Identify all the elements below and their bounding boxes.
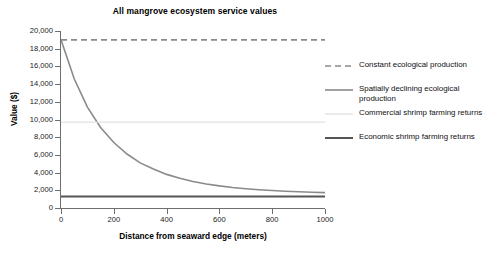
y-tick-mark [55, 120, 60, 121]
chart-figure: All mangrove ecosystem service values 02… [0, 0, 489, 258]
y-axis-label: Value ($) [9, 69, 19, 149]
y-tick-mark [55, 49, 60, 50]
series-line-2 [61, 40, 325, 193]
legend-swatch-icon [325, 136, 353, 140]
x-tick-mark [272, 209, 273, 214]
x-axis-label: Distance from seaward edge (meters) [60, 231, 326, 241]
legend-label: Spatially declining ecological productio… [359, 84, 489, 104]
y-tick-label-wrap: 10,000 [0, 116, 53, 124]
y-tick-label-wrap: 14,000 [0, 80, 53, 88]
legend-swatch-icon [325, 112, 353, 116]
x-tick-label: 1000 [305, 216, 345, 224]
legend-item[interactable]: Commercial shrimp farming returns [325, 108, 489, 128]
y-tick-mark [55, 31, 60, 32]
legend-label: Economic shrimp farming returns [359, 132, 489, 142]
legend-swatch-icon [325, 64, 353, 68]
y-tick-mark [55, 102, 60, 103]
legend-item[interactable]: Constant ecological production [325, 60, 489, 80]
y-tick-label-wrap: 20,000 [0, 27, 53, 35]
y-tick-label-wrap: 6,000 [0, 151, 53, 159]
legend-label: Commercial shrimp farming returns [359, 108, 489, 118]
x-tick-label: 400 [147, 216, 187, 224]
y-tick-label: 4,000 [9, 169, 53, 177]
x-tick-mark [61, 209, 62, 214]
y-tick-label: 6,000 [9, 151, 53, 159]
y-tick-label-wrap: 2,000 [0, 186, 53, 194]
legend-item[interactable]: Spatially declining ecological productio… [325, 84, 489, 104]
y-tick-mark [55, 155, 60, 156]
y-tick-mark [55, 190, 60, 191]
x-tick-label: 800 [252, 216, 292, 224]
y-tick-mark [55, 137, 60, 138]
y-tick-label-wrap: 4,000 [0, 169, 53, 177]
chart-legend: Constant ecological productionSpatially … [325, 60, 489, 156]
y-tick-mark [55, 66, 60, 67]
legend-item[interactable]: Economic shrimp farming returns [325, 132, 489, 152]
x-tick-label: 0 [41, 216, 81, 224]
x-tick-mark [167, 209, 168, 214]
x-axis-line [60, 208, 325, 209]
legend-label: Constant ecological production [359, 60, 489, 70]
y-tick-label: 0 [9, 204, 53, 212]
y-tick-label: 2,000 [9, 186, 53, 194]
chart-title: All mangrove ecosystem service values [60, 6, 330, 16]
y-tick-label-wrap: 12,000 [0, 98, 53, 106]
legend-swatch-icon [325, 88, 353, 92]
x-tick-mark [219, 209, 220, 214]
y-tick-label-wrap: 8,000 [0, 133, 53, 141]
y-tick-mark [55, 173, 60, 174]
y-tick-label-wrap: 18,000 [0, 45, 53, 53]
series-lines [61, 31, 325, 208]
y-tick-mark [55, 208, 60, 209]
x-tick-mark [325, 209, 326, 214]
y-tick-label: 20,000 [9, 27, 53, 35]
x-tick-mark [114, 209, 115, 214]
y-tick-label-wrap: 0 [0, 204, 53, 212]
y-tick-label: 18,000 [9, 45, 53, 53]
y-tick-label-wrap: 16,000 [0, 62, 53, 70]
x-tick-label: 200 [94, 216, 134, 224]
y-tick-mark [55, 84, 60, 85]
x-tick-label: 600 [199, 216, 239, 224]
